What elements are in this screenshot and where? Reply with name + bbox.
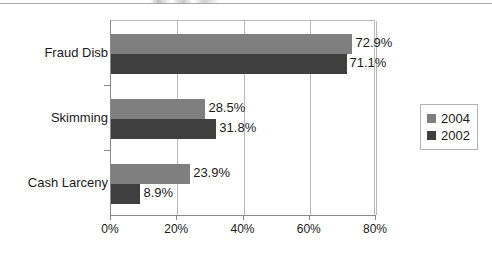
bar-2004-fraud-disb[interactable] xyxy=(111,34,352,54)
dark-gray-swatch-icon xyxy=(427,131,436,140)
category-label: Cash Larceny xyxy=(28,175,108,190)
bar-value-label: 71.1% xyxy=(350,55,387,70)
legend-label-2004: 2004 xyxy=(441,112,470,125)
y-axis-tick xyxy=(104,85,110,86)
x-axis-tick xyxy=(243,215,244,220)
bar-2004-cash-larceny[interactable] xyxy=(111,164,190,184)
gridline xyxy=(376,21,377,215)
bar-2002-fraud-disb[interactable] xyxy=(111,54,347,74)
chart-legend: 2004 2002 xyxy=(420,104,478,150)
bar-2002-skimming[interactable] xyxy=(111,119,216,139)
x-axis-tick xyxy=(110,215,111,220)
legend-item-2004[interactable]: 2004 xyxy=(427,110,470,127)
x-axis-tick-label: 60% xyxy=(279,222,339,236)
x-axis-tick-label: 20% xyxy=(146,222,206,236)
bar-value-label: 72.9% xyxy=(355,35,392,50)
x-axis-tick xyxy=(309,215,310,220)
category-label: Skimming xyxy=(51,110,108,125)
legend-item-2002[interactable]: 2002 xyxy=(427,127,470,144)
y-axis-tick xyxy=(104,150,110,151)
bar-value-label: 8.9% xyxy=(143,185,173,200)
category-label: Fraud Disb xyxy=(44,45,108,60)
x-axis-tick xyxy=(176,215,177,220)
light-gray-swatch-icon xyxy=(427,114,436,123)
cropped-title-remnant xyxy=(150,0,220,3)
plot-right-edge xyxy=(374,21,375,215)
bar-2004-skimming[interactable] xyxy=(111,99,205,119)
bar-value-label: 31.8% xyxy=(219,120,256,135)
header-divider-rule xyxy=(0,3,492,4)
x-axis-tick-label: 40% xyxy=(213,222,273,236)
bar-value-label: 23.9% xyxy=(193,165,230,180)
x-axis-tick-label: 80% xyxy=(345,222,405,236)
bar-value-label: 28.5% xyxy=(208,100,245,115)
bar-2002-cash-larceny[interactable] xyxy=(111,184,140,204)
legend-label-2002: 2002 xyxy=(441,129,470,142)
x-axis-tick xyxy=(375,215,376,220)
x-axis-tick-label: 0% xyxy=(80,222,140,236)
bar-chart: 0%20%40%60%80% Fraud DisbSkimmingCash La… xyxy=(0,0,492,258)
